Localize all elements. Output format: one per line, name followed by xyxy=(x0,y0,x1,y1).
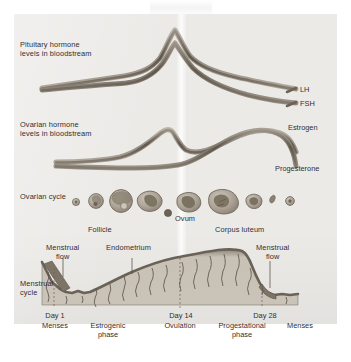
corpus-albicans-icon xyxy=(286,197,295,206)
axis-phase-menses-start: Menses xyxy=(36,321,74,330)
estrogen-curve xyxy=(56,130,296,162)
corpus-luteum-callout-label: Corpus luteum xyxy=(215,225,264,234)
axis-day-14: Day 14 xyxy=(162,311,200,320)
menstrual-cycle-figure: Pituitary hormone levels in bloodstream … xyxy=(0,0,351,362)
axis-phase-estrogenic: Estrogenic phase xyxy=(80,321,136,340)
menstrual-cycle-label: Menstrual cycle xyxy=(20,279,53,297)
estrogen-series-label: Estrogen xyxy=(288,123,318,132)
axis-day-1: Day 1 xyxy=(38,311,72,320)
menstrual-flow-right-callout-label: Menstrual flow xyxy=(256,243,289,261)
follicle-stage-1-icon xyxy=(72,198,79,205)
ovarian-hormone-label: Ovarian hormone levels in bloodstream xyxy=(20,120,92,138)
axis-phase-ovulation: Ovulation xyxy=(152,321,208,330)
fsh-series-label: FSH xyxy=(300,99,315,108)
corpus-luteum-stage-7-icon xyxy=(246,194,262,208)
progesterone-series-label: Progesterone xyxy=(275,164,319,173)
ovarian-hormone-curves xyxy=(56,130,296,169)
corpus-luteum-stage-5-icon xyxy=(177,192,201,212)
follicle-stage-2-icon xyxy=(89,194,104,209)
follicle-stage-3-icon xyxy=(110,190,133,213)
lh-series-label: LH xyxy=(300,85,309,94)
pituitary-hormone-label: Pituitary hormone levels in bloodstream xyxy=(20,40,92,58)
axis-phase-menses-end: Menses xyxy=(280,321,320,330)
follicle-callout-label: Follicle xyxy=(88,225,112,234)
ovum-icon xyxy=(164,209,171,216)
ovum-callout-label: Ovum xyxy=(175,214,195,223)
endometrium-callout-label: Endometrium xyxy=(106,243,151,252)
axis-day-28: Day 28 xyxy=(246,311,284,320)
menstrual-flow-left-callout-label: Menstrual flow xyxy=(46,243,79,261)
ovarian-cycle-structures xyxy=(72,189,294,216)
corpus-luteum-stage-6-icon xyxy=(209,189,239,214)
corpus-albicans-remnant-icon xyxy=(270,195,276,203)
ovarian-cycle-label: Ovarian cycle xyxy=(20,192,66,201)
follicle-stage-4-ruptured-icon xyxy=(137,191,162,211)
axis-phase-progestational: Progestational phase xyxy=(206,321,278,340)
